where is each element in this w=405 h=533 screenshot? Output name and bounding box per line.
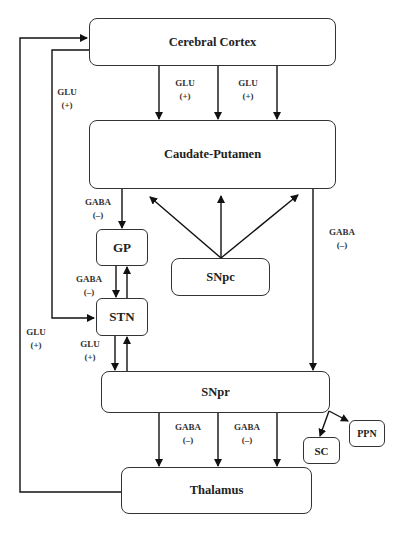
label-snpr-thalamus-1: GABA (–) (168, 421, 208, 447)
node-label: GP (113, 240, 131, 256)
node-label: Caudate-Putamen (164, 147, 261, 162)
node-label: SNpc (206, 270, 234, 285)
node-ppn: PPN (349, 420, 385, 447)
node-snpr: SNpr (101, 371, 330, 413)
node-caudate-putamen: Caudate-Putamen (89, 120, 336, 189)
arrow-snpr-ppn (329, 411, 348, 421)
node-label: STN (109, 309, 134, 325)
arrow-snpc-caudate-3 (221, 195, 298, 258)
label-stn-snpr: GLU (+) (70, 338, 110, 364)
node-stn: STN (96, 298, 148, 336)
node-cerebral-cortex: Cerebral Cortex (89, 18, 336, 66)
node-thalamus: Thalamus (121, 467, 312, 514)
label-cortex-stn: GLU (+) (47, 86, 87, 112)
arrow-snpc-caudate-1 (150, 197, 221, 258)
label-cortex-caudate-2: GLU (+) (228, 77, 268, 103)
label-gp-stn: GABA (–) (69, 273, 109, 299)
label-caudate-gp: GABA (–) (78, 196, 118, 222)
label-cortex-caudate-1: GLU (+) (165, 77, 205, 103)
label-thalamus-cortex: GLU (+) (16, 326, 56, 352)
label-snpr-thalamus-2: GABA (–) (227, 421, 267, 447)
arrow-snpr-sc (320, 411, 329, 436)
node-label: SC (314, 445, 328, 457)
node-label: Cerebral Cortex (169, 35, 257, 50)
node-snpc: SNpc (171, 258, 270, 296)
node-gp: GP (96, 229, 148, 266)
node-label: Thalamus (190, 483, 244, 498)
node-label: SNpr (201, 385, 229, 400)
node-sc: SC (303, 437, 340, 464)
node-label: PPN (357, 428, 376, 439)
label-caudate-snpr: GABA (–) (322, 226, 362, 252)
